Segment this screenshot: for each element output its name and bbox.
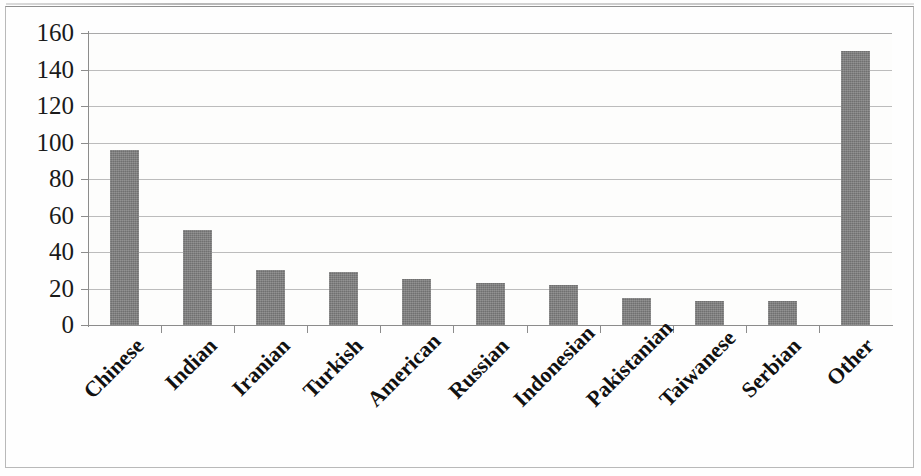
bar (329, 272, 358, 325)
bar (695, 301, 724, 325)
y-axis-tick (81, 179, 88, 180)
y-axis-tick (81, 216, 88, 217)
x-axis-category-label: Turkish (289, 333, 368, 412)
x-axis-category-label: Pakistanian (581, 333, 660, 412)
x-axis-category-label: Serbian (728, 333, 807, 412)
y-axis-tick (81, 143, 88, 144)
y-axis-tick (81, 289, 88, 290)
y-axis-tick (81, 33, 88, 34)
y-axis-tick-label: 20 (16, 276, 74, 301)
y-axis-tick (81, 106, 88, 107)
y-axis-tick-label: 100 (16, 130, 74, 155)
bar (768, 301, 797, 325)
x-axis-category-label: Chinese (70, 333, 149, 412)
x-axis-category-label: Iranian (216, 333, 295, 412)
y-axis-tick-label: 140 (16, 57, 74, 82)
x-axis-category-label: Indian (143, 333, 222, 412)
y-axis-tick-label: 120 (16, 93, 74, 118)
bar-chart: 160140120100806040200 ChineseIndianIrani… (0, 0, 921, 476)
x-axis-category-labels: ChineseIndianIranianTurkishAmericanRussi… (0, 325, 921, 475)
x-axis-category-label: American (362, 333, 441, 412)
bar (549, 285, 578, 325)
bar (110, 150, 139, 325)
bar-series (88, 33, 892, 325)
y-axis-tick (81, 70, 88, 71)
bar (402, 279, 431, 325)
y-axis-tick-label: 60 (16, 203, 74, 228)
x-axis-category-label: Indonesian (508, 333, 587, 412)
bar (256, 270, 285, 325)
bar (476, 283, 505, 325)
bar (183, 230, 212, 325)
x-axis-category-label: Other (801, 333, 880, 412)
y-axis-tick-label: 40 (16, 239, 74, 264)
y-axis-tick-label: 160 (16, 20, 74, 45)
x-axis-category-label: Russian (435, 333, 514, 412)
bar (622, 298, 651, 325)
y-axis-tick-label: 80 (16, 166, 74, 191)
bar (841, 51, 870, 325)
x-axis-category-label: Taiwanese (654, 333, 733, 412)
y-axis-tick (81, 252, 88, 253)
